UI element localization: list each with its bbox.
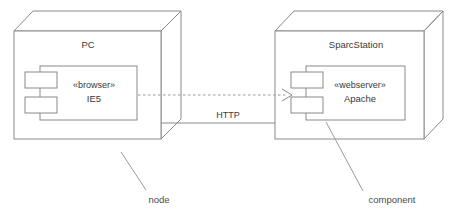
component-apache-tab-lower (291, 97, 323, 113)
node-sparcstation-top-face (275, 11, 443, 31)
annotation-node-label: node (148, 194, 169, 205)
diagram-canvas: PC «browser» IE5 SparcStation (0, 0, 458, 220)
node-sparcstation-title: SparcStation (329, 39, 383, 50)
component-apache-name: Apache (344, 93, 376, 104)
node-pc-right-face (161, 11, 181, 139)
component-ie5-stereotype: «browser» (73, 80, 115, 90)
annotation-node-leader (121, 152, 146, 190)
component-ie5-tab-lower (25, 97, 57, 113)
node-pc-title: PC (81, 39, 94, 50)
component-apache-tab-upper (291, 72, 323, 88)
uml-deployment-diagram: PC «browser» IE5 SparcStation (0, 0, 458, 220)
node-sparcstation-right-face (424, 11, 443, 139)
node-pc-top-face (14, 11, 181, 31)
annotation-component-label: component (368, 194, 415, 205)
component-ie5-tab-upper (25, 72, 57, 88)
http-connection[interactable]: HTTP (161, 110, 275, 123)
component-apache[interactable]: «webserver» Apache (291, 66, 405, 120)
component-ie5-name: IE5 (87, 93, 101, 104)
annotation-node: node (121, 152, 170, 205)
http-connection-label: HTTP (216, 110, 240, 120)
component-ie5[interactable]: «browser» IE5 (25, 66, 137, 120)
component-apache-stereotype: «webserver» (334, 80, 386, 90)
